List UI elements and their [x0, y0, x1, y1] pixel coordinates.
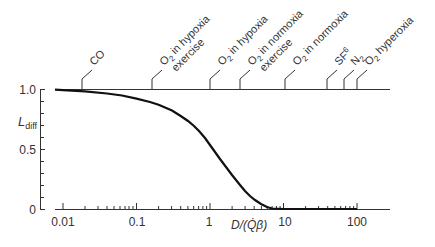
- x-tick-label-1: 1: [206, 215, 213, 229]
- marker-o2-normoxia: [285, 70, 295, 89]
- marker-n2: [344, 70, 354, 89]
- annotation-co: CO: [87, 47, 107, 67]
- x-tick-label-0.1: 0.1: [129, 215, 146, 229]
- diffusion-limitation-chart: 1.0 0.5 0 Ldiff 0.01 0.1 1 10 100 D/(Q̇β…: [0, 0, 435, 247]
- y-tick-label-1: 1.0: [19, 83, 36, 97]
- marker-o2-hyperoxia: [357, 70, 367, 89]
- marker-sf6: [327, 70, 337, 89]
- marker-o2-normoxia-exercise: [240, 70, 250, 89]
- x-tick-label-10: 10: [278, 215, 292, 229]
- marker-o2-hypoxia-exercise: [152, 70, 162, 89]
- y-axis-label: Ldiff: [18, 114, 38, 131]
- y-axis: [40, 89, 45, 210]
- annotation-markers: [82, 70, 367, 89]
- marker-o2-hypoxia: [210, 70, 220, 89]
- annotation-o2-hyperoxia: O2 hyperoxia: [362, 13, 418, 69]
- ldiff-curve: [55, 90, 357, 209]
- marker-co: [82, 70, 92, 89]
- x-tick-label-0.01: 0.01: [51, 215, 75, 229]
- y-tick-label-0.5: 0.5: [19, 143, 36, 157]
- y-tick-label-0: 0: [29, 203, 36, 217]
- x-tick-label-100: 100: [347, 215, 367, 229]
- x-axis-label: D/(Q̇β): [231, 218, 267, 232]
